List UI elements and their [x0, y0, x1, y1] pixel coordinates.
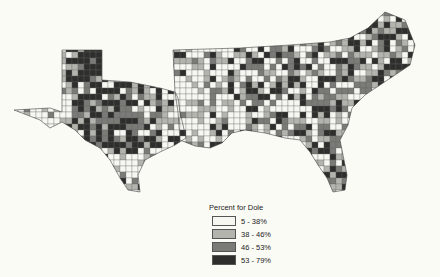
- legend-label: 53 - 79%: [241, 256, 271, 265]
- legend-item: 53 - 79%: [209, 254, 271, 266]
- counties-layer: [12, 10, 420, 196]
- legend-title: Percent for Dole: [209, 203, 271, 212]
- legend: Percent for Dole 5 - 38% 38 - 46% 46 - 5…: [209, 203, 271, 267]
- choropleth-map: [0, 0, 440, 200]
- legend-label: 38 - 46%: [241, 230, 271, 239]
- legend-swatch: [212, 216, 236, 226]
- legend-item: 5 - 38%: [209, 215, 271, 227]
- legend-label: 46 - 53%: [241, 243, 271, 252]
- legend-swatch: [212, 255, 236, 265]
- legend-item: 46 - 53%: [209, 241, 271, 253]
- legend-swatch: [212, 229, 236, 239]
- legend-swatch: [212, 242, 236, 252]
- legend-label: 5 - 38%: [241, 217, 267, 226]
- legend-item: 38 - 46%: [209, 228, 271, 240]
